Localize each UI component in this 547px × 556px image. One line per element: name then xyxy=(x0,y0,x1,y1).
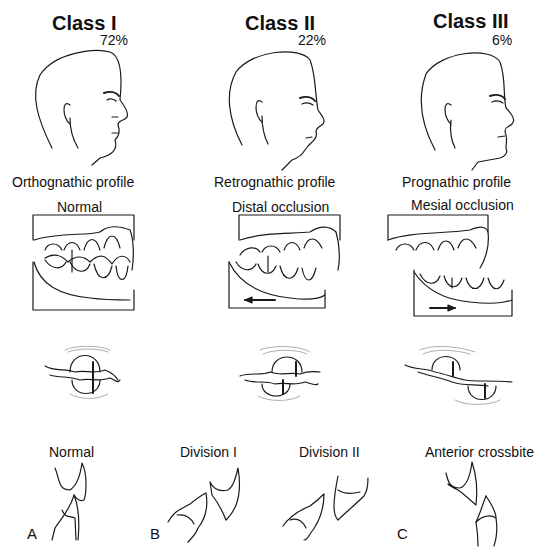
incisor-relationship-illustration xyxy=(0,0,547,556)
